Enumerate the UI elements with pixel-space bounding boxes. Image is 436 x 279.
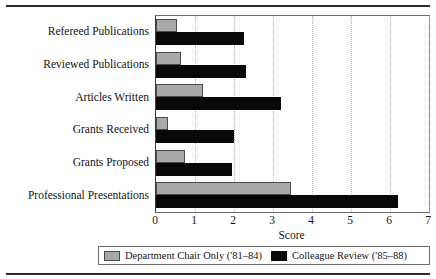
bar-group: [156, 49, 429, 82]
bar-group: [156, 16, 429, 49]
bar: [156, 163, 232, 176]
gridline: [429, 16, 431, 212]
bar: [156, 52, 181, 65]
x-tick-label: 0: [143, 214, 167, 226]
bar-group: [156, 179, 429, 212]
category-label: Articles Written: [0, 91, 149, 103]
bar: [156, 195, 398, 208]
figure: Refereed PublicationsReviewed Publicatio…: [0, 0, 436, 279]
figure-bottom-rule: [6, 273, 430, 275]
category-label: Refereed Publications: [0, 25, 149, 37]
x-tick-label: 1: [182, 214, 206, 226]
bar-group: [156, 147, 429, 180]
bar: [156, 32, 244, 45]
chart-legend: Department Chair Only ('81–84) Colleague…: [98, 246, 430, 265]
category-label: Grants Proposed: [0, 156, 149, 168]
x-tick-label: 2: [221, 214, 245, 226]
bar: [156, 182, 291, 195]
x-tick-label: 7: [416, 214, 436, 226]
bar: [156, 65, 246, 78]
bar: [156, 117, 168, 130]
category-label: Grants Received: [0, 123, 149, 135]
bar: [156, 150, 185, 163]
figure-top-rule: [6, 5, 430, 7]
x-tick-label: 3: [260, 214, 284, 226]
x-tick-label: 6: [377, 214, 401, 226]
category-label: Reviewed Publications: [0, 58, 149, 70]
legend-entry-department-chair-only: Department Chair Only ('81–84): [99, 250, 262, 261]
bar-group: [156, 81, 429, 114]
x-axis-title: Score: [155, 229, 428, 241]
bar: [156, 19, 177, 32]
legend-swatch-gray-icon: [104, 251, 120, 261]
plot-area: [155, 15, 430, 213]
legend-label: Department Chair Only ('81–84): [125, 250, 262, 261]
x-tick-label: 4: [299, 214, 323, 226]
legend-swatch-black-icon: [271, 251, 287, 261]
bar: [156, 97, 281, 110]
category-label: Professional Presentations: [0, 189, 149, 201]
legend-label: Colleague Review ('85–88): [292, 250, 407, 261]
bar: [156, 84, 203, 97]
legend-entry-colleague-review: Colleague Review ('85–88): [262, 250, 407, 261]
bar: [156, 130, 234, 143]
x-tick-label: 5: [338, 214, 362, 226]
bar-group: [156, 114, 429, 147]
